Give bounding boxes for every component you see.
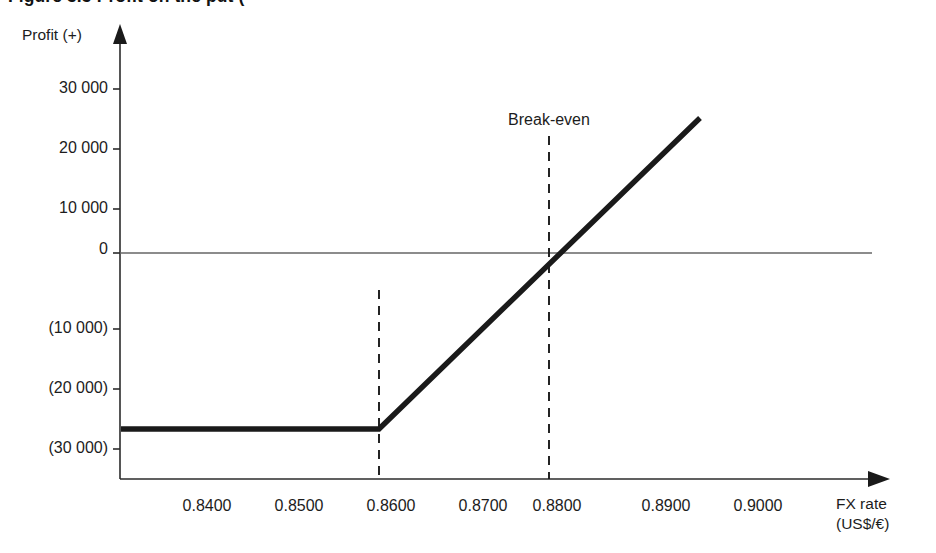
figure-root: Figure 3.3 Profit on the put ( — [0, 0, 936, 553]
x-tick-label-08600: 0.8600 — [345, 497, 437, 515]
y-tick-label-0: 0 — [0, 240, 108, 258]
y-tick-label-30000: 30 000 — [0, 79, 108, 97]
x-axis-title: FX rate (US$/€) — [836, 494, 889, 534]
y-tick-label-neg10000: (10 000) — [0, 319, 108, 337]
y-tick-label-neg20000: (20 000) — [0, 379, 108, 397]
breakeven-annotation-label: Break-even — [473, 111, 625, 129]
y-tick-label-20000: 20 000 — [0, 139, 108, 157]
x-axis — [120, 471, 890, 487]
x-axis-title-line2: (US$/€) — [836, 514, 889, 534]
y-axis-ticks — [113, 89, 120, 449]
y-axis — [113, 24, 127, 479]
x-tick-label-08400: 0.8400 — [161, 497, 253, 515]
x-tick-label-08900: 0.8900 — [620, 497, 712, 515]
x-tick-label-08500: 0.8500 — [253, 497, 345, 515]
y-tick-label-10000: 10 000 — [0, 199, 108, 217]
x-axis-title-line1: FX rate — [836, 494, 889, 514]
profit-payoff-line — [121, 118, 700, 429]
y-tick-label-neg30000: (30 000) — [0, 439, 108, 457]
x-tick-label-09000: 0.9000 — [712, 497, 804, 515]
y-axis-title: Profit (+) — [22, 26, 82, 44]
x-tick-label-08800: 0.8800 — [511, 497, 603, 515]
chart-canvas — [0, 0, 936, 553]
